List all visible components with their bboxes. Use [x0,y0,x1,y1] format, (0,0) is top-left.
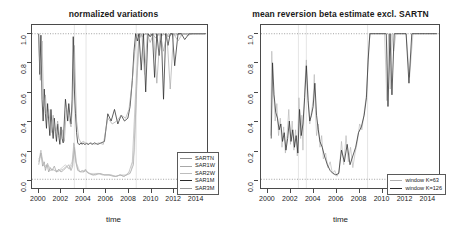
legend-label: SAR1M [195,177,214,184]
x-tick [83,189,84,193]
legend-right[interactable]: window K=63window K=126 [387,174,446,195]
legend-item[interactable]: SAR1W [180,162,215,169]
legend-left[interactable]: SARTNSAR1WSAR2WSAR1MSAR3M [177,152,219,195]
x-tick [38,189,39,193]
legend-swatch [180,180,192,181]
legend-swatch [180,188,192,189]
legend-item[interactable]: SAR1M [180,177,215,184]
legend-item[interactable]: SAR3M [180,185,215,192]
figure-canvas: normalized variations 0.00.20.40.60.81.0… [0,0,454,236]
x-tick [128,189,129,193]
x-axis-title-left: time [0,215,227,224]
legend-label: SAR1W [195,162,215,169]
y-axis-left: 0.00.20.40.60.81.0 [0,24,31,189]
legend-label: window K=126 [405,185,442,192]
x-tick [173,189,174,193]
x-axis-title-right: time [227,215,454,224]
x-tick-label: 2010 [143,195,159,202]
x-tick-label: 2000 [259,195,275,202]
panel-mean-reversion-beta: mean reversion beta estimate excl. SARTN… [227,0,454,236]
x-tick [336,189,337,193]
legend-swatch [180,166,192,167]
x-tick-label: 2012 [397,195,413,202]
x-tick [151,189,152,193]
legend-item[interactable]: window K=63 [390,177,442,184]
legend-swatch [180,173,192,174]
x-tick [359,189,360,193]
y-tick-label: 0.0 [247,177,259,197]
legend-item[interactable]: window K=126 [390,185,442,192]
x-tick-label: 2014 [188,195,204,202]
x-tick-label: 2006 [98,195,114,202]
x-tick-label: 2002 [53,195,69,202]
legend-item[interactable]: SARTN [180,155,215,162]
legend-label: SAR3M [195,185,214,192]
x-tick-label: 2002 [282,195,298,202]
x-tick-label: 2004 [75,195,91,202]
panel-title-left: normalized variations [0,9,227,19]
legend-label: SARTN [195,155,214,162]
panel-title-right: mean reversion beta estimate excl. SARTN [227,9,454,19]
x-tick-label: 2004 [305,195,321,202]
legend-swatch [390,188,402,189]
legend-swatch [180,158,192,159]
y-axis-right: 0.00.20.40.60.81.0 [227,24,258,189]
legend-swatch [390,180,402,181]
x-tick [105,189,106,193]
x-tick [60,189,61,193]
legend-item[interactable]: SAR2W [180,170,215,177]
plot-area-right [260,24,440,189]
legend-label: SAR2W [195,170,215,177]
x-tick-label: 2012 [165,195,181,202]
x-tick-label: 2010 [374,195,390,202]
x-tick [267,189,268,193]
x-tick-label: 2008 [120,195,136,202]
x-tick [313,189,314,193]
x-tick [382,189,383,193]
x-tick-label: 2014 [420,195,436,202]
plot-lines-right [261,25,439,188]
x-tick-label: 2000 [30,195,46,202]
x-tick-label: 2006 [328,195,344,202]
x-tick-label: 2008 [351,195,367,202]
legend-label: window K=63 [405,177,438,184]
x-tick [290,189,291,193]
panel-normalized-variations: normalized variations 0.00.20.40.60.81.0… [0,0,227,236]
